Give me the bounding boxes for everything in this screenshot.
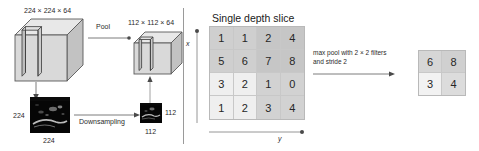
output-pooled-grid: 6834 [418,50,466,96]
cube-3d-icon-small [132,30,184,76]
output-cell-r0-c1: 8 [442,51,465,73]
vertical-divider [183,8,184,144]
x-axis-label: x [186,40,190,47]
arrow-right-icon-y-axis [209,128,305,136]
downsampling-arrow-label: Downsampling [79,117,125,126]
output-cell-r0-c0: 6 [419,51,442,73]
figure-root: 224 × 224 × 64 Pool 112 × 112 × 64 [0,0,479,151]
maxpool-operation-label-line2: and stride 2 [313,58,347,66]
input-cell-r1-c2: 7 [257,50,281,73]
output-cell-r1-c0: 3 [419,73,442,95]
arrow-up-icon-x-axis [192,28,202,123]
arrow-up-icon-volume-small [145,76,155,106]
pool-arrow-label: Pool [96,22,110,31]
feature-map-small-side-label: 112 [165,108,176,117]
arrow-right-icon-maxpool [313,70,395,78]
input-depth-slice-grid: 1124567832101234 [209,26,305,120]
input-cell-r1-c0: 5 [210,50,234,73]
input-cell-r1-c3: 8 [281,50,305,73]
input-cell-r2-c3: 0 [281,73,305,96]
input-cell-r2-c2: 1 [257,73,281,96]
input-cell-r0-c0: 1 [210,27,234,50]
volume-output-dimensions-label: 112 × 112 × 64 [128,18,174,27]
page-title: Single depth slice [212,12,294,24]
feature-map-thumbnail-small [140,103,162,123]
input-cell-r3-c0: 1 [210,96,234,119]
input-cell-r3-c1: 2 [234,96,258,119]
volume-input-dimensions-label: 224 × 224 × 64 [24,6,71,15]
input-cell-r2-c1: 2 [234,73,258,96]
feature-map-large-bottom-label: 224 [43,136,55,145]
input-cell-r0-c2: 2 [257,27,281,50]
input-cell-r1-c1: 6 [234,50,258,73]
feature-map-thumbnail-large [30,97,70,133]
arrow-right-icon-pool [88,34,132,42]
feature-map-small-bottom-label: 112 [145,127,156,136]
maxpool-operation-label-line1: max pool with 2 × 2 filters [313,49,387,57]
input-cell-r3-c2: 3 [257,96,281,119]
output-cell-r1-c1: 4 [442,73,465,95]
y-axis-label: y [278,135,282,142]
input-cell-r2-c0: 3 [210,73,234,96]
cube-3d-icon-large [13,17,85,83]
input-cell-r3-c3: 4 [281,96,305,119]
input-cell-r0-c3: 4 [281,27,305,50]
feature-map-large-side-label: 224 [13,111,25,120]
input-cell-r0-c1: 1 [234,27,258,50]
